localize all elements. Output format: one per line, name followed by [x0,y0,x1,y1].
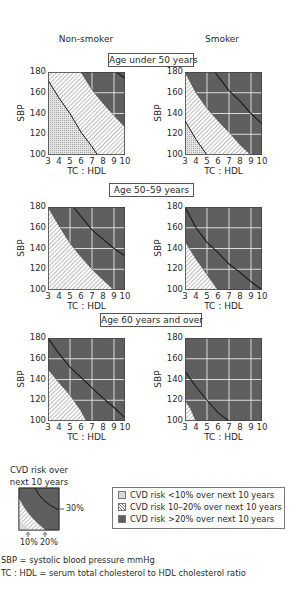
y-tick-label: 180 [161,66,183,76]
y-tick-label: 160 [24,353,46,363]
y-tick-label: 120 [24,394,46,404]
key-label-30: 30% [66,504,84,513]
x-axis-label: TC : HDL [47,166,127,176]
legend-item-mid: CVD risk 10–20% over next 10 years [118,501,284,513]
x-tick-label: 10 [256,422,268,432]
swatch-low-icon [118,491,126,499]
legend: CVD risk <10% over next 10 years CVD ris… [112,487,285,529]
chart-plot-area [185,207,262,290]
key-label-10: 10% [20,538,38,547]
footnote-sbp: SBP = systolic blood pressure mmHg [1,555,155,565]
y-tick-label: 180 [161,332,183,342]
swatch-high-icon [118,515,126,523]
legend-label-low: CVD risk <10% over next 10 years [130,490,274,500]
y-tick-label: 120 [161,128,183,138]
swatch-mid-icon [118,503,126,511]
y-tick-label: 160 [24,87,46,97]
x-axis-label: TC : HDL [184,166,264,176]
y-tick-label: 120 [24,263,46,273]
key-title-line1: CVD risk over [4,464,74,476]
chart-smoker-50-59: 180160140120100345678910TC : HDLSBP [155,201,272,316]
column-title-non-smoker: Non-smoker [36,34,136,44]
key-label-20: 20% [40,538,58,547]
x-tick-label: 10 [119,422,131,432]
chart-smoker-under-50: 180160140120100345678910TC : HDLSBP [155,66,272,181]
x-tick-label: 10 [256,156,268,166]
chart-plot-area [185,72,262,155]
y-tick-label: 160 [161,222,183,232]
key-title: CVD risk over next 10 years [4,464,74,488]
x-tick-label: 10 [256,291,268,301]
legend-item-high: CVD risk >20% over next 10 years [118,513,284,525]
legend-label-high: CVD risk >20% over next 10 years [130,514,274,524]
chart-non-smoker-60-plus: 180160140120100345678910TC : HDLSBP [18,332,135,447]
y-axis-label: SBP [153,98,163,128]
legend-item-low: CVD risk <10% over next 10 years [118,489,284,501]
x-tick-label: 10 [119,156,131,166]
x-axis-label: TC : HDL [47,432,127,442]
y-tick-label: 180 [161,201,183,211]
y-axis-label: SBP [16,233,26,263]
y-tick-label: 160 [24,222,46,232]
y-tick-label: 120 [24,128,46,138]
chart-plot-area [48,338,125,421]
y-axis-label: SBP [16,98,26,128]
y-tick-label: 140 [161,243,183,253]
y-tick-label: 140 [24,374,46,384]
legend-label-mid: CVD risk 10–20% over next 10 years [130,502,282,512]
x-axis-label: TC : HDL [184,301,264,311]
chart-non-smoker-under-50: 180160140120100345678910TC : HDLSBP [18,66,135,181]
y-tick-label: 140 [24,108,46,118]
x-axis-label: TC : HDL [47,301,127,311]
y-tick-label: 180 [24,66,46,76]
y-tick-label: 120 [161,263,183,273]
chart-smoker-60-plus: 180160140120100345678910TC : HDLSBP [155,332,272,447]
y-axis-label: SBP [153,233,163,263]
y-tick-label: 140 [161,108,183,118]
chart-plot-area [185,338,262,421]
chart-plot-area [48,72,125,155]
x-tick-label: 10 [119,291,131,301]
y-tick-label: 180 [24,201,46,211]
age-group-50-59: Age 50–59 years [109,183,194,197]
y-tick-label: 140 [24,243,46,253]
y-tick-label: 180 [24,332,46,342]
y-tick-label: 160 [161,87,183,97]
footnote-tc-hdl: TC : HDL = serum total cholesterol to HD… [1,568,246,578]
column-title-smoker: Smoker [172,34,272,44]
y-tick-label: 140 [161,374,183,384]
y-axis-label: SBP [16,364,26,394]
chart-plot-area [48,207,125,290]
chart-non-smoker-50-59: 180160140120100345678910TC : HDLSBP [18,201,135,316]
x-axis-label: TC : HDL [184,432,264,442]
y-tick-label: 120 [161,394,183,404]
age-group-under-50: Age under 50 years [108,53,194,67]
y-axis-label: SBP [153,364,163,394]
y-tick-label: 160 [161,353,183,363]
